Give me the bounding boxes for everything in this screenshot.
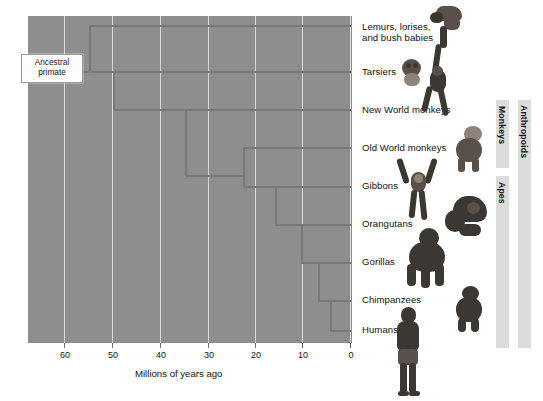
tip-label-gibbons: Gibbons bbox=[362, 180, 398, 191]
orangutan-photo bbox=[443, 192, 495, 242]
gridline-0 bbox=[350, 16, 351, 343]
branch-orangutans bbox=[301, 224, 351, 226]
tip-label-tarsiers: Tarsiers bbox=[362, 66, 396, 77]
branch-tarsiers bbox=[113, 71, 351, 73]
axis-ticklabel-40: 40 bbox=[148, 350, 174, 360]
tip-label-old-world-monkeys: Old World monkeys bbox=[362, 142, 446, 153]
figure-root: Ancestral primate Lemurs, lorises, and b… bbox=[0, 0, 543, 401]
axis-tick-20 bbox=[255, 343, 256, 348]
branch-root-vertical bbox=[89, 25, 91, 73]
tip-label-gorillas: Gorillas bbox=[362, 256, 395, 267]
axis-tick-30 bbox=[208, 343, 209, 348]
human-photo bbox=[388, 307, 428, 399]
tip-label-chimpanzees: Chimpanzees bbox=[362, 294, 421, 305]
branch-catarrhine-vertical bbox=[243, 147, 245, 188]
gridline-40 bbox=[160, 16, 161, 343]
tip-label-new-world-monkeys: New World monkeys bbox=[362, 104, 451, 115]
tip-label-humans: Humans bbox=[362, 324, 398, 335]
axis-ticklabel-10: 10 bbox=[290, 350, 316, 360]
axis-ticklabel-50: 50 bbox=[100, 350, 126, 360]
branch-african-ape-vertical bbox=[318, 262, 320, 302]
bracket-label-apes: Apes bbox=[497, 182, 507, 204]
macaque-photo bbox=[450, 126, 490, 174]
branch-haplorhine-vertical bbox=[113, 71, 115, 111]
gridline-50 bbox=[112, 16, 113, 343]
gridline-10 bbox=[302, 16, 303, 343]
gorilla-photo bbox=[403, 228, 453, 290]
chimpanzee-photo bbox=[450, 286, 490, 334]
branch-lemurs bbox=[89, 25, 351, 27]
axis-title: Millions of years ago bbox=[135, 368, 222, 379]
axis-ticklabel-20: 20 bbox=[243, 350, 269, 360]
lemur-photo bbox=[428, 4, 470, 50]
branch-haplorhine-stem bbox=[89, 71, 115, 73]
branch-gibbons bbox=[275, 186, 351, 188]
gridline-30 bbox=[208, 16, 209, 343]
gridline-20 bbox=[255, 16, 256, 343]
tip-label-orangutans: Orangutans bbox=[362, 218, 413, 229]
axis-tick-60 bbox=[64, 343, 65, 348]
branch-catarrhine-stem bbox=[185, 175, 245, 177]
bracket-label-anthropoids: Anthropoids bbox=[519, 105, 529, 158]
branch-ape-stem bbox=[243, 186, 277, 188]
branch-hominine-vertical bbox=[330, 300, 332, 332]
branch-anthropoid-vertical bbox=[185, 109, 187, 177]
axis-tick-50 bbox=[112, 343, 113, 348]
branch-old-world-monkeys bbox=[243, 147, 351, 149]
axis-tick-10 bbox=[302, 343, 303, 348]
branch-gorillas bbox=[318, 262, 351, 264]
axis-ticklabel-0: 0 bbox=[338, 350, 364, 360]
branch-ape-vertical bbox=[275, 186, 277, 226]
branch-chimpanzees bbox=[330, 300, 351, 302]
axis-ticklabel-60: 60 bbox=[52, 350, 78, 360]
tarsier-photo bbox=[398, 57, 428, 89]
branch-anthropoid-stem bbox=[113, 109, 187, 111]
axis-tick-40 bbox=[160, 343, 161, 348]
tip-label-lemurs: Lemurs, lorises, and bush babies bbox=[362, 21, 433, 43]
bracket-label-monkeys: Monkeys bbox=[497, 106, 507, 144]
axis-ticklabel-30: 30 bbox=[196, 350, 222, 360]
axis-tick-0 bbox=[350, 343, 351, 348]
gibbon-photo bbox=[398, 158, 440, 226]
branch-great-ape-vertical bbox=[301, 224, 303, 264]
branch-new-world-monkeys bbox=[185, 109, 351, 111]
branch-great-ape-stem bbox=[275, 224, 303, 226]
branch-humans bbox=[330, 330, 351, 332]
ancestral-primate-callout: Ancestral primate bbox=[21, 54, 83, 83]
